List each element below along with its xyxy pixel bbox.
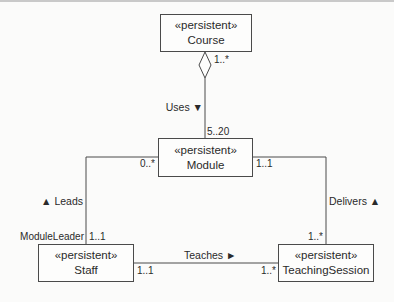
delivers-to-multiplicity: 1..* [308,231,323,243]
leads-to-multiplicity: 0..* [140,158,155,170]
class-stereotype: «persistent» [55,248,118,263]
class-name: Staff [74,263,97,278]
delivers-label: Delivers ▲ [329,195,380,207]
uses-to-multiplicity: 5..20 [207,126,229,138]
leads-label: ▲ Leads [36,195,83,207]
class-name: Course [187,33,224,48]
aggregation-diamond-icon [199,52,211,78]
delivers-from-multiplicity: 1..1 [256,158,273,170]
class-staff[interactable]: «persistent» Staff [38,244,134,282]
class-module[interactable]: «persistent» Module [158,138,253,177]
teaches-from-multiplicity: 1..1 [137,265,154,277]
class-course[interactable]: «persistent» Course [160,14,252,52]
teaches-to-multiplicity: 1..* [261,265,276,277]
teaches-label: Teaches ► [184,249,236,261]
class-stereotype: «persistent» [295,248,358,263]
class-name: Module [187,158,225,173]
class-stereotype: «persistent» [175,18,238,33]
class-teachingsession[interactable]: «persistent» TeachingSession [278,244,374,282]
uses-label: Uses ▼ [163,101,203,113]
leads-role: ModuleLeader [10,231,84,243]
class-name: TeachingSession [283,263,370,278]
uses-from-multiplicity: 1..* [214,54,229,66]
leads-from-multiplicity: 1..1 [89,231,106,243]
class-stereotype: «persistent» [174,143,237,158]
